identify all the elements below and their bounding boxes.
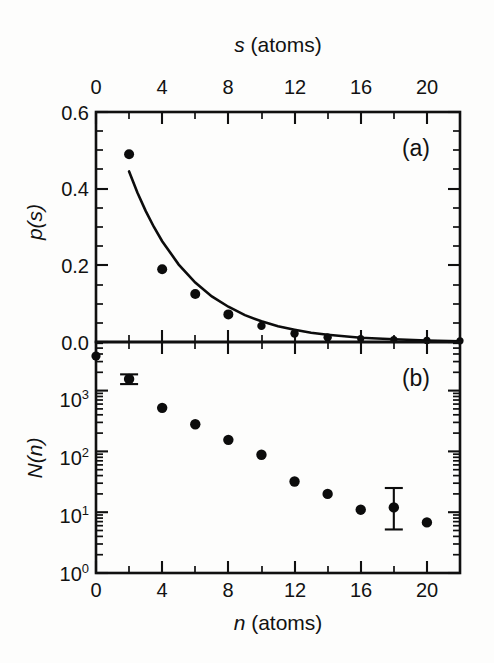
data-point — [256, 450, 266, 460]
panel-a-right-ticks — [448, 112, 460, 342]
panel-b-y-tick-labels: 103 102 101 100 — [60, 387, 89, 585]
panel-a-y-axis-title: p(s) — [23, 204, 46, 241]
data-point — [157, 264, 167, 274]
data-point — [289, 476, 299, 486]
top-tick-label-8: 8 — [222, 76, 233, 98]
bottom-tick-label-16: 16 — [350, 579, 372, 601]
data-point — [356, 504, 366, 514]
data-point — [223, 309, 233, 319]
top-axis-title: s (atoms) — [234, 33, 322, 56]
data-point — [124, 374, 134, 384]
bottom-tick-label-12: 12 — [284, 579, 306, 601]
panel-a-label: (a) — [402, 135, 430, 161]
panel-b-top-ticks — [96, 342, 460, 354]
data-point — [190, 419, 200, 429]
panel-b-bottom-ticks — [96, 561, 460, 573]
figure-canvas: s (atoms) 0 4 8 12 16 20 — [0, 0, 494, 663]
panel-a: s (atoms) 0 4 8 12 16 20 — [23, 33, 464, 354]
top-tick-label-4: 4 — [156, 76, 167, 98]
data-point — [223, 435, 233, 445]
y-tick-label-b-1e1: 101 — [60, 503, 89, 527]
data-point — [190, 289, 200, 299]
data-point — [91, 351, 100, 360]
top-tick-label-12: 12 — [284, 76, 306, 98]
data-point — [157, 403, 167, 413]
y-tick-label-a-04: 0.4 — [61, 178, 89, 200]
top-axis-tick-labels: 0 4 8 12 16 20 — [90, 76, 438, 98]
panel-b: N(n) 103 102 101 100 — [23, 342, 460, 634]
y-tick-label-a-00: 0.0 — [61, 332, 89, 354]
data-point — [389, 502, 399, 512]
bottom-tick-label-8: 8 — [222, 579, 233, 601]
data-point — [124, 149, 134, 159]
y-tick-label-b-1e2: 102 — [60, 445, 89, 469]
top-axis-ticks — [96, 112, 460, 124]
panel-a-fit-curve — [129, 171, 460, 341]
top-tick-label-16: 16 — [350, 76, 372, 98]
bottom-axis-title: n (atoms) — [234, 611, 323, 634]
y-tick-label-b-1e3: 103 — [60, 387, 89, 411]
top-tick-label-20: 20 — [416, 76, 438, 98]
y-tick-label-a-06: 0.6 — [61, 102, 89, 124]
data-point — [257, 322, 265, 330]
bottom-tick-label-0: 0 — [90, 579, 101, 601]
panel-a-y-tick-labels: 0.6 0.4 0.2 0.0 — [61, 102, 89, 354]
data-point — [290, 329, 298, 337]
data-point — [322, 489, 332, 499]
panel-b-y-axis-title: N(n) — [23, 438, 46, 479]
panel-b-label: (b) — [402, 365, 430, 391]
top-tick-label-0: 0 — [90, 76, 101, 98]
panel-a-data-points — [124, 149, 464, 344]
scientific-figure: s (atoms) 0 4 8 12 16 20 — [0, 0, 494, 663]
panel-b-data-points — [91, 351, 432, 527]
bottom-axis-tick-labels: 0 4 8 12 16 20 — [90, 579, 438, 601]
panel-a-left-ticks — [96, 112, 108, 342]
data-point — [323, 333, 331, 341]
data-point — [422, 517, 432, 527]
y-tick-label-a-02: 0.2 — [61, 255, 89, 277]
bottom-tick-label-20: 20 — [416, 579, 438, 601]
bottom-tick-label-4: 4 — [156, 579, 167, 601]
y-tick-label-b-1e0: 100 — [60, 561, 89, 585]
